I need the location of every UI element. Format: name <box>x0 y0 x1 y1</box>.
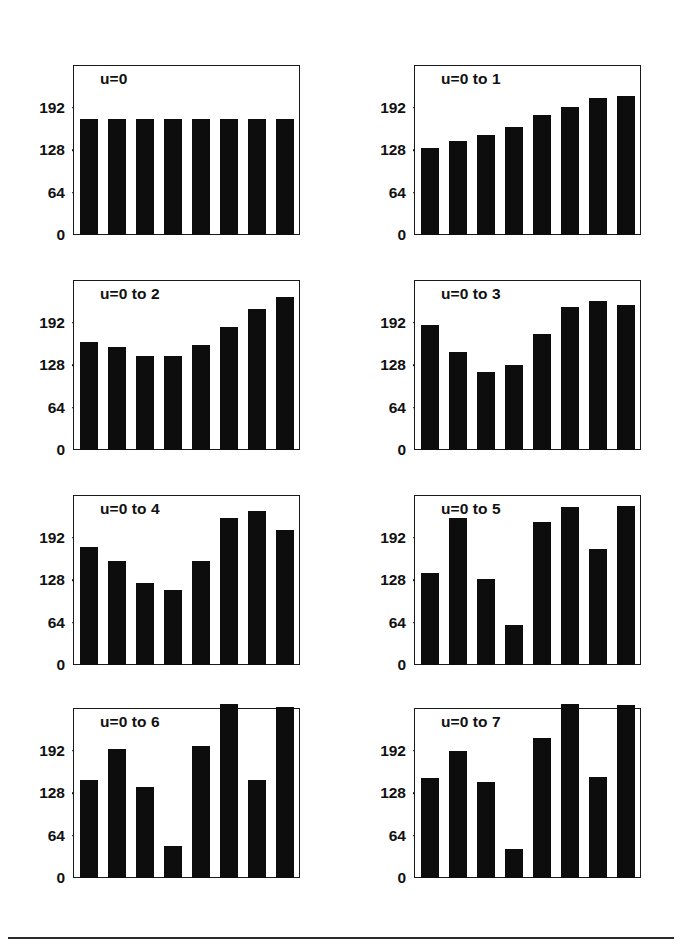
y-axis-tick-label: 64 <box>360 614 406 632</box>
bar-series <box>73 240 300 450</box>
bar <box>192 119 210 235</box>
bar <box>248 119 266 235</box>
bar <box>136 119 154 235</box>
bar <box>421 573 439 665</box>
y-axis-tick-label: 192 <box>19 314 65 332</box>
bar <box>533 115 551 235</box>
bar <box>561 704 579 878</box>
bar <box>617 96 635 235</box>
bar <box>108 749 126 878</box>
y-axis-tick-label: 0 <box>360 869 406 887</box>
bar <box>276 707 294 878</box>
y-axis-tick-label: 0 <box>19 869 65 887</box>
bar-series <box>73 25 300 235</box>
y-axis-tick-label: 0 <box>19 441 65 459</box>
bar <box>248 511 266 665</box>
bar <box>589 301 607 450</box>
bar <box>80 780 98 878</box>
bar <box>421 778 439 878</box>
bar <box>533 738 551 878</box>
chart-panel: 064128192u=0 to 4 <box>0 470 341 685</box>
bar <box>164 356 182 450</box>
y-axis-tick-label: 128 <box>360 356 406 374</box>
bar-series <box>73 455 300 665</box>
y-axis-tick-label: 192 <box>360 99 406 117</box>
y-axis-tick-label: 128 <box>19 784 65 802</box>
bar <box>617 305 635 450</box>
panel-title: u=0 to 3 <box>441 285 501 303</box>
bar-series <box>414 668 641 878</box>
chart-panel: 064128192u=0 to 3 <box>341 255 682 470</box>
bar <box>248 309 266 450</box>
bar <box>589 549 607 665</box>
chart-panel: 064128192u=0 to 5 <box>341 470 682 685</box>
bar-series <box>414 25 641 235</box>
bar <box>108 561 126 665</box>
bar <box>505 365 523 450</box>
bar <box>80 342 98 450</box>
y-axis-tick-label: 128 <box>19 356 65 374</box>
bar <box>276 530 294 665</box>
bar <box>617 705 635 878</box>
y-axis-tick-label: 192 <box>19 529 65 547</box>
bar-series <box>414 240 641 450</box>
bar <box>248 780 266 878</box>
panel-title: u=0 to 2 <box>100 285 160 303</box>
chart-panel: 064128192u=0 to 7 <box>341 683 682 898</box>
y-axis-tick-label: 64 <box>360 399 406 417</box>
y-axis-tick-label: 128 <box>360 784 406 802</box>
y-axis-tick-label: 192 <box>360 529 406 547</box>
bar <box>477 135 495 235</box>
bar <box>164 846 182 878</box>
y-axis-tick-label: 192 <box>19 742 65 760</box>
bar <box>505 127 523 235</box>
bar <box>192 345 210 450</box>
y-axis-tick-label: 0 <box>360 226 406 244</box>
bar <box>533 334 551 450</box>
bar-series <box>73 668 300 878</box>
bar <box>108 347 126 450</box>
y-axis-tick-label: 64 <box>19 184 65 202</box>
bar-series <box>414 455 641 665</box>
bar <box>449 352 467 450</box>
panel-title: u=0 to 7 <box>441 713 501 731</box>
figure-bottom-rule <box>8 937 674 939</box>
y-axis-tick-label: 0 <box>19 226 65 244</box>
panel-title: u=0 to 4 <box>100 500 160 518</box>
y-axis-tick-label: 192 <box>360 742 406 760</box>
bar <box>164 119 182 235</box>
chart-panel: 064128192u=0 <box>0 40 341 255</box>
bar <box>136 583 154 665</box>
bar <box>421 325 439 451</box>
y-axis-tick-label: 64 <box>360 827 406 845</box>
y-axis-tick-label: 192 <box>360 314 406 332</box>
chart-panel: 064128192u=0 to 1 <box>341 40 682 255</box>
panel-title: u=0 <box>100 70 127 88</box>
bar <box>421 148 439 235</box>
chart-panel: 064128192u=0 to 2 <box>0 255 341 470</box>
bar <box>220 119 238 235</box>
bar <box>276 119 294 235</box>
y-axis-tick-label: 192 <box>19 99 65 117</box>
bar <box>477 372 495 450</box>
bar <box>80 547 98 665</box>
bar <box>505 625 523 665</box>
y-axis-tick-label: 128 <box>360 141 406 159</box>
y-axis-tick-label: 64 <box>360 184 406 202</box>
y-axis-tick-label: 64 <box>19 827 65 845</box>
bar <box>192 561 210 665</box>
bar <box>164 590 182 665</box>
bar <box>589 98 607 235</box>
bar <box>220 704 238 878</box>
bar <box>136 356 154 450</box>
y-axis-tick-label: 0 <box>360 656 406 674</box>
figure-canvas: 064128192u=0064128192u=0 to 1064128192u=… <box>0 0 682 949</box>
chart-panel: 064128192u=0 to 6 <box>0 683 341 898</box>
bar <box>136 787 154 878</box>
bar <box>589 777 607 878</box>
y-axis-tick-label: 64 <box>19 399 65 417</box>
y-axis-tick-label: 128 <box>360 571 406 589</box>
bar <box>449 141 467 235</box>
bar <box>533 522 551 665</box>
y-axis-tick-label: 0 <box>19 656 65 674</box>
